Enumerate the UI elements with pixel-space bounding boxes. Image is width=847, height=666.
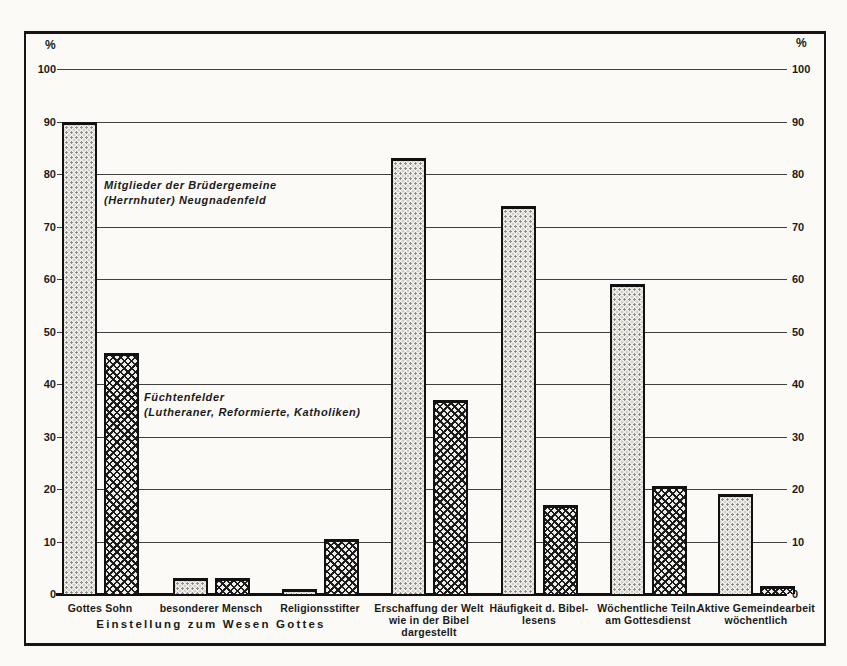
- y-tick-left-40: 40: [18, 377, 56, 391]
- y-tick-left-20: 20: [18, 482, 56, 496]
- y-tick-right-0: 0: [792, 587, 822, 601]
- bar-series1-category5: [501, 206, 536, 595]
- gridline-90: [57, 122, 787, 123]
- bar-series2-category4: [433, 400, 468, 594]
- bar-series2-category3: [324, 539, 359, 594]
- x-category-label-line: Aktive Gemeindearbeit: [681, 602, 831, 614]
- bar-series2-category6: [652, 486, 687, 594]
- x-axis-group-caption: Einstellung zum Wesen Gottes: [84, 618, 338, 630]
- y-tick-right-40: 40: [792, 377, 822, 391]
- y-tick-left-60: 60: [18, 272, 56, 286]
- y-tick-left-90: 90: [18, 115, 56, 129]
- x-category-label-line: wöchentlich: [681, 614, 831, 626]
- y-tick-left-10: 10: [18, 535, 56, 549]
- scanned-chart-page: % % Mitglieder der Brüdergemeine (Herrnh…: [0, 0, 847, 666]
- series-label-line: (Lutheraner, Reformierte, Katholiken): [144, 405, 361, 420]
- series-label-fuechtenfelder: Füchtenfelder (Lutheraner, Reformierte, …: [144, 390, 361, 419]
- bar-series1-category4: [391, 158, 426, 594]
- series-label-bruedergemeine: Mitglieder der Brüdergemeine (Herrnhuter…: [104, 178, 277, 207]
- y-axis-unit-right: %: [796, 36, 807, 50]
- gridline-100: [57, 69, 787, 70]
- y-tick-left-100: 100: [18, 62, 56, 76]
- series-label-line: (Herrnhuter) Neugnadenfeld: [104, 193, 277, 208]
- y-tick-right-10: 10: [792, 535, 822, 549]
- bar-series2-category5: [543, 505, 578, 594]
- bar-series1-category3: [282, 589, 317, 594]
- bar-series1-category2: [173, 578, 208, 594]
- y-tick-right-100: 100: [792, 62, 822, 76]
- bar-series1-category1: [62, 122, 97, 595]
- y-tick-left-80: 80: [18, 167, 56, 181]
- series-label-line: Füchtenfelder: [144, 390, 361, 405]
- x-category-label-7: Aktive Gemeindearbeitwöchentlich: [681, 602, 831, 626]
- bar-series2-category2: [215, 578, 250, 594]
- y-tick-right-90: 90: [792, 115, 822, 129]
- y-tick-right-20: 20: [792, 482, 822, 496]
- y-tick-right-60: 60: [792, 272, 822, 286]
- y-tick-right-30: 30: [792, 430, 822, 444]
- y-tick-left-50: 50: [18, 325, 56, 339]
- series-label-line: Mitglieder der Brüdergemeine: [104, 178, 277, 193]
- y-tick-right-70: 70: [792, 220, 822, 234]
- bar-series1-category7: [718, 494, 753, 594]
- bar-series2-category1: [104, 353, 139, 595]
- x-category-label-line: dargestellt: [354, 626, 504, 638]
- bar-series2-category7: [760, 586, 795, 594]
- y-tick-left-70: 70: [18, 220, 56, 234]
- bar-series1-category6: [610, 284, 645, 594]
- y-axis-unit-left: %: [45, 38, 56, 52]
- y-tick-left-0: 0: [18, 587, 56, 601]
- y-tick-right-80: 80: [792, 167, 822, 181]
- y-tick-left-30: 30: [18, 430, 56, 444]
- y-tick-right-50: 50: [792, 325, 822, 339]
